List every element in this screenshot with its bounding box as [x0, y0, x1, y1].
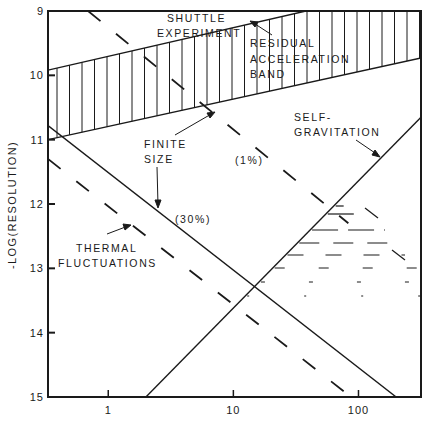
x-tick-label-10: 10: [226, 404, 240, 416]
annotation-thermal-line1: THERMAL: [76, 242, 137, 254]
x-tick-label-100: 100: [348, 404, 369, 416]
x-tick-label-1: 1: [105, 404, 112, 416]
annotation-finite-line2: SIZE: [144, 153, 174, 165]
y-tick-label-9: 9: [37, 5, 44, 17]
annotation-shuttle-line1: SHUTTLE: [167, 12, 226, 24]
annotation-pct1: (1%): [235, 154, 264, 166]
arrow-finite-size-1pct-head: [207, 112, 215, 118]
self-gravitation-line: [146, 117, 421, 397]
arrow-selfgrav-head: [372, 150, 380, 157]
y-tick-label-12: 12: [30, 198, 44, 210]
annotation-selfgrav-line2: GRAVITATION: [294, 126, 380, 138]
plot-frame: [48, 11, 421, 397]
annotation-shuttle-line2: EXPERIMENT: [157, 27, 241, 39]
annotation-thermal-line2: FLUCTUATIONS: [58, 257, 157, 269]
annotation-residual-line1: RESIDUAL: [250, 37, 315, 49]
annotation-residual-line2: ACCELERATION: [250, 53, 350, 65]
chart: 9101112131415 110100 -LOG(RESOLUTION) SH…: [0, 0, 431, 441]
thermal-fluctuations-line: [48, 159, 351, 397]
y-tick-label-13: 13: [30, 262, 44, 274]
annotation-residual-line3: BAND: [250, 68, 286, 80]
arrow-thermal-head: [123, 224, 131, 230]
self-gravitation-hatch: [247, 206, 421, 296]
y-axis-label: -LOG(RESOLUTION): [6, 141, 18, 269]
annotation-finite-line1: FINITE: [144, 138, 187, 150]
y-tick-label-11: 11: [31, 134, 44, 146]
arrow-finite-size-30pct-head: [155, 200, 161, 208]
gravitation-hatch-edge: [365, 208, 378, 218]
arrow-finite-size-1pct: [175, 113, 213, 135]
annotation-selfgrav-line1: SELF-: [294, 111, 332, 123]
y-tick-label-15: 15: [30, 391, 44, 403]
y-tick-label-10: 10: [30, 69, 44, 81]
annotation-pct30: (30%): [175, 213, 211, 225]
y-tick-label-14: 14: [30, 327, 44, 339]
arrow-finite-size-30pct: [157, 167, 158, 205]
